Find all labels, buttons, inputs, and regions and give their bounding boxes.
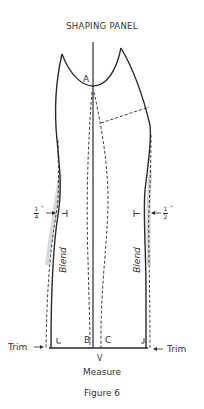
left-measure-fraction: 1 4 (34, 206, 39, 220)
right-measure-arrowhead (151, 211, 155, 215)
measure-symbol: V (97, 355, 102, 363)
trim-right-arrowhead (153, 347, 157, 351)
right-measure-unit: " (170, 205, 173, 211)
neck-curve (62, 48, 121, 86)
inner-dashed-left (87, 92, 92, 348)
measure-label: Measure (0, 367, 204, 377)
trim-left-label: Trim (8, 343, 27, 352)
corner-mark-right (141, 338, 144, 343)
blend-left-label: Blend (58, 247, 68, 273)
left-measure-unit: " (41, 205, 44, 211)
right-measure-fraction: 1 2 (163, 206, 168, 220)
corner-mark-left (57, 338, 61, 343)
figure-caption: Figure 6 (0, 388, 204, 398)
right-outline (121, 48, 151, 348)
cross-dashed-line (101, 107, 149, 123)
point-a-label: A (83, 75, 89, 84)
trim-left-arrowhead (40, 345, 44, 349)
point-c-label: C (105, 336, 111, 345)
trim-right-label: Trim (167, 345, 186, 354)
blend-right-label: Blend (132, 247, 142, 273)
inner-dashed-right (94, 92, 108, 348)
point-b-label: B (84, 336, 90, 345)
